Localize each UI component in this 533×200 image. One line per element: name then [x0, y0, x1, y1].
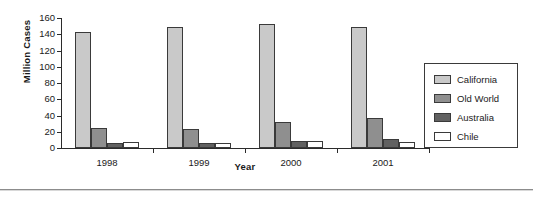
legend-item-australia: Australia [434, 112, 494, 122]
y-axis-tick-label: 120 [39, 45, 55, 56]
bar [167, 27, 183, 148]
y-axis-tick: 20 [25, 132, 61, 133]
y-axis-tick-label: 160 [39, 12, 55, 23]
legend-label: California [457, 74, 497, 85]
legend-swatch [434, 113, 451, 122]
legend-label: Australia [457, 112, 494, 123]
legend-item-chile: Chile [434, 131, 479, 141]
y-axis-tick: 160 [25, 18, 61, 19]
bar [183, 129, 199, 149]
y-axis-tick-mark [57, 116, 61, 117]
chart-legend: CaliforniaOld WorldAustraliaChile [424, 63, 518, 148]
y-axis-tick-label: 100 [39, 61, 55, 72]
y-axis-tick-label: 40 [44, 110, 55, 121]
y-axis-tick: 80 [25, 83, 61, 84]
bar-chart-figure: Million Cases 020406080100120140160 1998… [0, 0, 533, 200]
y-axis-tick-mark [57, 67, 61, 68]
bar [107, 143, 123, 148]
y-axis-tick-label: 60 [44, 93, 55, 104]
y-axis-tick-mark [57, 148, 61, 149]
y-axis-tick-mark [57, 132, 61, 133]
y-axis-tick: 120 [25, 51, 61, 52]
bar [367, 118, 383, 148]
bar [123, 142, 139, 149]
y-axis-tick: 140 [25, 34, 61, 35]
y-axis-tick-mark [57, 18, 61, 19]
bar [351, 27, 367, 148]
bar [383, 139, 399, 148]
x-axis-group-separator [429, 148, 430, 153]
legend-label: Chile [457, 131, 479, 142]
x-axis-title: Year [61, 161, 429, 172]
y-axis-tick: 0 [25, 148, 61, 149]
bar [75, 32, 91, 148]
y-axis-tick: 60 [25, 99, 61, 100]
y-axis-title: Million Cases [21, 0, 32, 112]
y-axis-tick-mark [57, 83, 61, 84]
bar [91, 128, 107, 148]
legend-label: Old World [457, 93, 499, 104]
plot-area: 020406080100120140160 1998199920002001 [61, 18, 429, 148]
y-axis-tick-mark [57, 34, 61, 35]
legend-item-california: California [434, 74, 497, 84]
y-axis-tick-label: 0 [50, 142, 55, 153]
y-axis-tick: 40 [25, 116, 61, 117]
legend-swatch [434, 75, 451, 84]
y-axis-tick-label: 80 [44, 77, 55, 88]
bar [199, 143, 215, 148]
x-axis-group-separator [153, 148, 154, 153]
bar [259, 24, 275, 148]
y-axis-tick-label: 20 [44, 126, 55, 137]
legend-swatch [434, 94, 451, 103]
y-axis-tick-mark [57, 51, 61, 52]
legend-swatch [434, 132, 451, 141]
y-axis-line [61, 18, 62, 148]
footer-divider-shadow [0, 190, 533, 191]
y-axis-tick: 100 [25, 67, 61, 68]
y-axis-tick-label: 140 [39, 28, 55, 39]
bar [291, 141, 307, 148]
bar [399, 142, 415, 149]
bar [275, 122, 291, 148]
x-axis-group-separator [245, 148, 246, 153]
x-axis-group-separator [337, 148, 338, 153]
y-axis-tick-mark [57, 99, 61, 100]
bar [215, 143, 231, 148]
bar [307, 141, 323, 148]
legend-item-old-world: Old World [434, 93, 499, 103]
